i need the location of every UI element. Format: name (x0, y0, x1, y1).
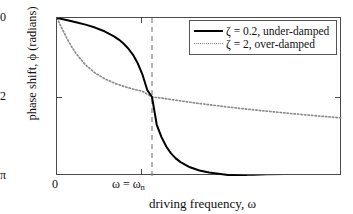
y-tick-label-0: 0 (0, 10, 6, 25)
plot-area: ζ = 0.2, under-damped ζ = 2, over-damped (56, 17, 341, 175)
x-tick-label-zero: 0 (52, 177, 58, 192)
legend-entry-under-damped: ζ = 0.2, under-damped (193, 25, 332, 37)
legend-entry-over-damped: ζ = 2, over-damped (193, 38, 332, 50)
phase-shift-chart: phase shift, ϕ (radians) 0 -π/2 -π 0 ω =… (0, 0, 353, 214)
x-tick-resonance-subscript: n (141, 182, 145, 192)
legend-line-sample-solid-icon (193, 26, 223, 36)
legend-label-under-damped: ζ = 0.2, under-damped (226, 25, 329, 37)
y-axis-label: phase shift, ϕ (radians) (25, 0, 40, 149)
y-tick-label-pi: -π (0, 168, 6, 183)
legend-label-over-damped: ζ = 2, over-damped (226, 38, 315, 50)
legend-line-sample-dotted-icon (193, 39, 223, 49)
x-axis-label: driving frequency, ω (0, 196, 353, 212)
x-tick-resonance-main: ω = ω (112, 177, 141, 191)
x-tick-label-resonance: ω = ωn (112, 177, 145, 192)
y-tick-label-half-pi: -π/2 (0, 89, 6, 104)
legend: ζ = 0.2, under-damped ζ = 2, over-damped (189, 20, 337, 55)
